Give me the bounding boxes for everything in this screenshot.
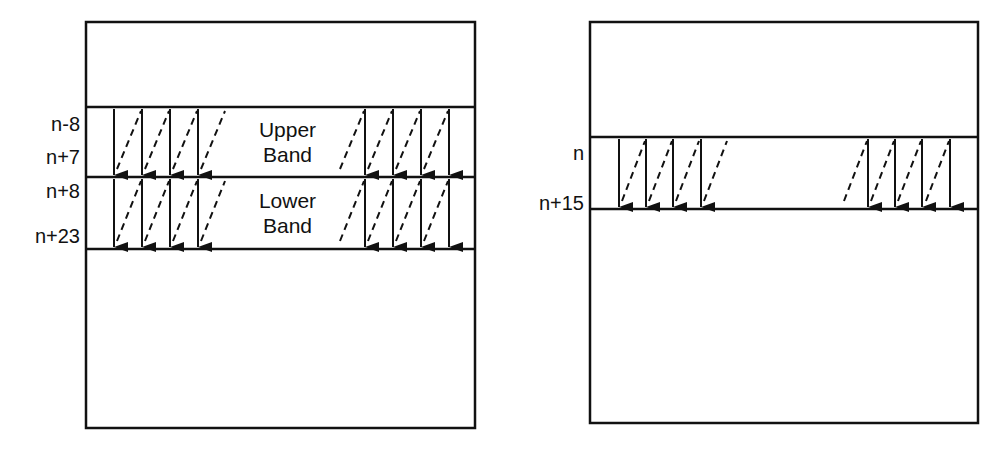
left-panel-two-bands: n-8n+7n+8n+23UpperBandLowerBand [35, 22, 475, 428]
retrace-dashed-line [340, 111, 364, 169]
right-panel-single-band: nn+15 [539, 22, 978, 423]
band-diagram: n-8n+7n+8n+23UpperBandLowerBand nn+15 [0, 0, 999, 449]
band-label: Band [263, 214, 312, 237]
band-label: Band [263, 143, 312, 166]
retrace-dashed-line [871, 141, 894, 201]
retrace-dashed-line [676, 141, 699, 201]
retrace-dashed-line [844, 141, 867, 201]
retrace-dashed-line [649, 141, 672, 201]
retrace-dashed-line [201, 181, 225, 241]
retrace-dashed-line [396, 181, 420, 241]
retrace-dashed-line [926, 141, 949, 201]
frame-box [590, 22, 978, 423]
retrace-dashed-line [704, 141, 727, 201]
retrace-dashed-line [622, 141, 645, 201]
row-index-label: n-8 [51, 113, 80, 135]
retrace-dashed-line [340, 181, 364, 241]
retrace-dashed-line [898, 141, 921, 201]
retrace-dashed-line [368, 111, 392, 169]
row-index-label: n [573, 142, 584, 164]
band-label: Lower [259, 189, 316, 212]
retrace-dashed-line [173, 111, 197, 169]
retrace-dashed-line [173, 181, 197, 241]
retrace-dashed-line [201, 111, 225, 169]
retrace-dashed-line [145, 181, 169, 241]
retrace-dashed-line [117, 181, 141, 241]
row-index-label: n+15 [539, 192, 584, 214]
retrace-dashed-line [396, 111, 420, 169]
band-label: Upper [259, 118, 316, 141]
retrace-dashed-line [145, 111, 169, 169]
retrace-dashed-line [424, 181, 448, 241]
retrace-dashed-line [424, 111, 448, 169]
row-index-label: n+23 [35, 225, 80, 247]
retrace-dashed-line [368, 181, 392, 241]
row-index-label: n+7 [46, 146, 80, 168]
row-index-label: n+8 [46, 180, 80, 202]
retrace-dashed-line [117, 111, 141, 169]
